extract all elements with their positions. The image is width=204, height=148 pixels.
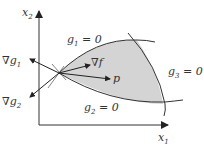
- p-label: p: [113, 72, 120, 85]
- grad-g2-arrow: [30, 73, 59, 97]
- constraint-label-g3: g3 = 0: [168, 65, 203, 80]
- constraint-label-g1: g1 = 0: [67, 33, 102, 48]
- grad-g1-label: ∇g1: [2, 54, 21, 69]
- grad-g2-label: ∇g2: [2, 95, 22, 110]
- y-axis-label: x2: [22, 6, 33, 21]
- grad-f-label: ∇f: [91, 56, 105, 69]
- constraint-label-g2: g2 = 0: [84, 101, 119, 116]
- grad-g1-arrow: [30, 59, 59, 73]
- feasible-region-diagram: x2 x1 g1 = 0 g2 = 0 g3 = 0 ∇f p ∇g1 ∇g2: [0, 0, 204, 148]
- feasible-region: [59, 40, 163, 104]
- x-axis-label: x1: [158, 131, 169, 146]
